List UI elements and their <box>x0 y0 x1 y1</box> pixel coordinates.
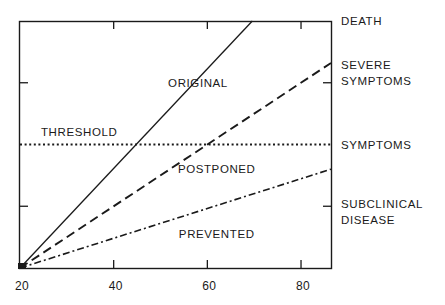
right-axis-label: SYMPTOMS <box>341 139 411 151</box>
region-labels: ORIGINALPOSTPONEDPREVENTED <box>168 77 255 240</box>
x-tick-label: 40 <box>109 279 123 293</box>
origin-marker <box>18 263 26 269</box>
series-postponed <box>20 63 331 268</box>
region-label-original: ORIGINAL <box>168 77 228 89</box>
right-axis-labels: DEATHSEVERESYMPTOMSSYMPTOMSSUBCLINICALDI… <box>341 15 423 226</box>
x-tick-labels: 20406080 <box>15 279 310 293</box>
right-axis-label: SUBCLINICALDISEASE <box>341 198 423 226</box>
x-tick-label: 60 <box>202 279 216 293</box>
x-tick-label: 80 <box>296 279 310 293</box>
chart: 20406080 DEATHSEVERESYMPTOMSSYMPTOMSSUBC… <box>0 0 445 305</box>
region-label-postponed: POSTPONED <box>178 163 256 175</box>
region-label-prevented: PREVENTED <box>179 228 255 240</box>
threshold-label: THRESHOLD <box>41 126 117 138</box>
right-axis-label: SEVERESYMPTOMS <box>341 59 411 87</box>
right-axis-label: DEATH <box>341 15 382 27</box>
threshold-line: THRESHOLD <box>20 126 331 145</box>
x-tick-label: 20 <box>15 279 29 293</box>
